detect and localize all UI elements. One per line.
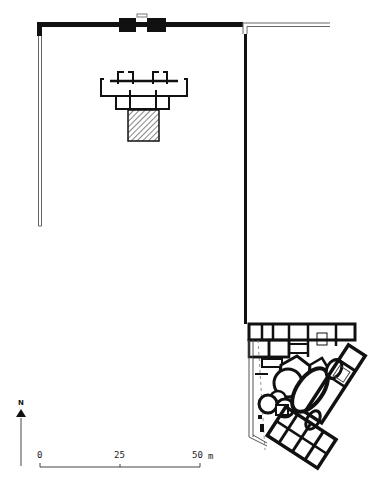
scale-tick-25: 25: [114, 451, 125, 460]
bath-complex: [249, 324, 365, 468]
scale-bar: [40, 463, 200, 467]
scale-unit: m: [208, 452, 213, 461]
scale-tick-50: 50: [192, 451, 203, 460]
enclosure-walls: [37, 14, 330, 324]
scale-tick-0: 0: [37, 451, 42, 460]
central-building: [101, 72, 187, 141]
gate-pier-right: [147, 18, 166, 32]
gate-pier-left: [119, 18, 136, 32]
north-label: N: [18, 399, 24, 407]
site-plan-drawing: [0, 0, 380, 482]
north-arrow: [16, 409, 26, 466]
